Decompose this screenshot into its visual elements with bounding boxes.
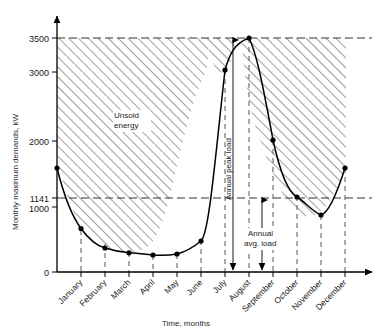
unsold-energy-annotation: Unsold energy [113,110,151,132]
annual-avg-load-label-line1: Annual [248,229,273,238]
x-label-february: February [77,277,109,309]
data-point-october [294,194,299,199]
unsold-energy-area-left [57,38,208,253]
y-axis-tick-labels: 3500 3000 2000 1141 1000 0 [29,34,49,278]
y-tick-1141: 1141 [30,194,49,204]
data-point-may [174,251,179,256]
y-tick-3500: 3500 [29,34,49,44]
x-axis-title: Time, months [162,319,210,328]
data-point-april [150,252,155,257]
y-axis-ticks [52,38,57,272]
y-tick-1000: 1000 [29,204,49,214]
unsold-energy-label-line1: Unsold [114,111,139,120]
data-point-december [342,165,347,170]
y-tick-3000: 3000 [29,68,49,78]
x-label-may: May [162,277,181,296]
y-axis-title: Monthly maximum demands, kW [11,114,20,230]
data-point-july [222,67,227,72]
x-axis-month-labels: January February March April May June Ju… [56,277,349,314]
data-point-february [102,245,107,250]
data-point-august [246,35,251,40]
data-point-november [318,212,323,217]
x-axis-ticks [81,272,345,277]
y-tick-0: 0 [44,268,49,278]
unsold-energy-label-line2: energy [114,121,138,130]
data-point-september [270,137,275,142]
annual-peak-load-label: Annual peak load [224,138,233,200]
y-tick-2000: 2000 [29,137,49,147]
x-label-april: April [137,277,156,296]
data-point-january [78,226,83,231]
x-label-july: July [211,277,229,295]
annual-avg-load-annotation: Annual avg. load [244,200,290,270]
x-label-march: March [109,277,133,301]
data-point-march [126,250,131,255]
monthly-maximum-demands-chart: Unsold energy [0,0,380,333]
annual-avg-load-label-line2: avg. load [244,239,276,248]
chart-figure: Unsold energy [0,0,380,333]
data-point-june [198,238,203,243]
x-label-june: June [184,277,204,297]
